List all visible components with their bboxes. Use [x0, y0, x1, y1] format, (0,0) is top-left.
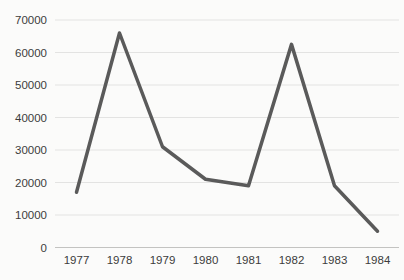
data-series-line: [77, 33, 378, 231]
x-axis-tick-label: 1982: [279, 254, 305, 266]
y-axis-tick-label: 60000: [15, 47, 47, 59]
x-axis-tick-label: 1980: [193, 254, 219, 266]
x-axis-tick-label: 1981: [236, 254, 262, 266]
x-axis-tick-label: 1977: [64, 254, 90, 266]
y-axis-tick-label: 20000: [15, 177, 47, 189]
x-axis-tick-label: 1984: [365, 254, 391, 266]
y-axis-tick-label: 50000: [15, 79, 47, 91]
y-axis-tick-label: 70000: [15, 14, 47, 26]
y-axis-tick-label: 10000: [15, 209, 47, 221]
chart-canvas: 0100002000030000400005000060000700001977…: [0, 0, 404, 280]
line-chart: 0100002000030000400005000060000700001977…: [0, 0, 404, 280]
y-axis-tick-label: 0: [41, 242, 47, 254]
x-axis-tick-label: 1983: [322, 254, 348, 266]
x-axis-tick-label: 1979: [150, 254, 176, 266]
x-axis-tick-label: 1978: [107, 254, 133, 266]
y-axis-tick-label: 30000: [15, 144, 47, 156]
y-axis-tick-label: 40000: [15, 112, 47, 124]
